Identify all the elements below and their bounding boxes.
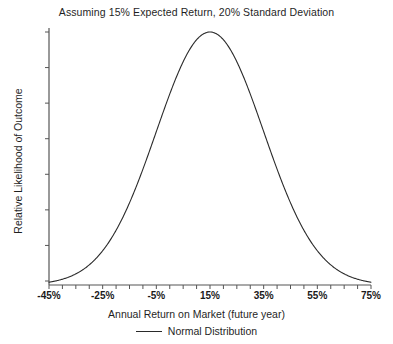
x-axis-tick-label: 35% bbox=[254, 290, 274, 301]
x-axis-tick-label: 75% bbox=[361, 290, 381, 301]
x-axis-tick-label: -5% bbox=[147, 290, 165, 301]
x-axis-tick-label: -25% bbox=[91, 290, 114, 301]
x-axis-title: Annual Return on Market (future year) bbox=[0, 308, 393, 320]
legend-line-swatch bbox=[136, 331, 162, 332]
normal-distribution-chart: Assuming 15% Expected Return, 20% Standa… bbox=[0, 0, 393, 344]
axes bbox=[49, 28, 371, 285]
legend-label-normal-distribution: Normal Distribution bbox=[168, 325, 257, 337]
chart-legend: Normal Distribution bbox=[0, 325, 393, 337]
normal-distribution-curve bbox=[49, 32, 371, 282]
x-axis-tick-label: 15% bbox=[200, 290, 220, 301]
x-axis-tick-labels: -45%-25%-5%15%35%55%75% bbox=[0, 290, 393, 304]
x-axis-tick-label: 55% bbox=[307, 290, 327, 301]
x-axis-tick-label: -45% bbox=[37, 290, 60, 301]
